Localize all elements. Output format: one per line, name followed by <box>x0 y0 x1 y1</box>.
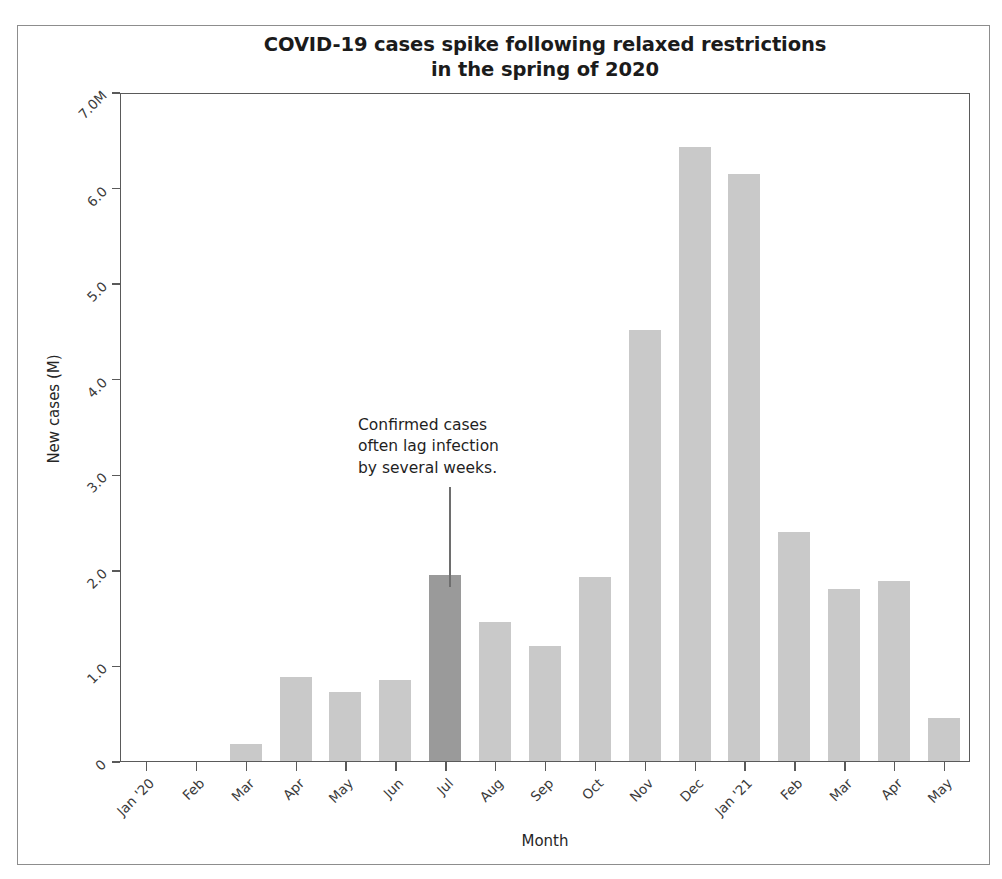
bar-slot <box>670 94 720 761</box>
y-axis-title: New cases (M) <box>45 339 63 479</box>
chart-page: COVID-19 cases spike following relaxed r… <box>0 0 1002 879</box>
bar-dec <box>679 147 711 761</box>
y-tick-mark <box>112 379 120 380</box>
bar-jan-21 <box>728 174 760 761</box>
x-tick-mark <box>944 762 945 771</box>
y-tick-mark <box>112 761 120 762</box>
bar-slot <box>221 94 271 761</box>
bar-nov <box>629 330 661 761</box>
x-tick-mark <box>146 762 147 771</box>
x-tick-mark <box>645 762 646 771</box>
x-tick-slot: May <box>919 762 969 771</box>
x-tick-mark <box>296 762 297 771</box>
x-tick-slot: May <box>321 762 371 771</box>
x-tick-slot: Aug <box>470 762 520 771</box>
x-tick-slot: Feb <box>171 762 221 771</box>
bar-slot <box>720 94 770 761</box>
x-tick-mark <box>395 762 396 771</box>
annotation-text: Confirmed cases often lag infection by s… <box>358 415 568 479</box>
x-tick-mark <box>445 762 446 771</box>
bar-may <box>329 692 361 761</box>
x-axis: Jan '20FebMarAprMayJunJulAugSepOctNovDec… <box>121 762 969 771</box>
x-tick-slot: Oct <box>570 762 620 771</box>
x-axis-title: Month <box>120 832 970 850</box>
bar-slot <box>121 94 171 761</box>
bar-may <box>928 718 960 761</box>
y-tick-mark <box>112 666 120 667</box>
x-tick-mark <box>794 762 795 771</box>
bar-slot <box>171 94 221 761</box>
x-tick-slot: Jul <box>420 762 470 771</box>
x-tick-mark <box>495 762 496 771</box>
bar-feb <box>778 532 810 761</box>
x-tick-mark <box>246 762 247 771</box>
x-tick-slot: Sep <box>520 762 570 771</box>
bar-slot <box>769 94 819 761</box>
x-tick-slot: Nov <box>620 762 670 771</box>
bar-slot <box>570 94 620 761</box>
x-tick-mark <box>595 762 596 771</box>
y-tick-mark <box>112 570 120 571</box>
x-tick-slot: Mar <box>819 762 869 771</box>
y-tick-mark <box>112 283 120 284</box>
bar-slot <box>819 94 869 761</box>
bar-slot <box>620 94 670 761</box>
x-tick-slot: Feb <box>769 762 819 771</box>
y-tick-mark <box>112 188 120 189</box>
bar-slot <box>869 94 919 761</box>
x-tick-slot: Jan '20 <box>121 762 171 771</box>
x-tick-mark <box>894 762 895 771</box>
bar-apr <box>878 581 910 761</box>
bar-oct <box>579 577 611 761</box>
x-tick-slot: Dec <box>670 762 720 771</box>
x-tick-mark <box>744 762 745 771</box>
bar-sep <box>529 646 561 761</box>
bar-aug <box>479 622 511 761</box>
x-tick-slot: Jan '21 <box>720 762 770 771</box>
bar-jul <box>429 575 461 761</box>
x-tick-mark <box>695 762 696 771</box>
x-tick-mark <box>545 762 546 771</box>
bar-jun <box>379 680 411 761</box>
chart-title: COVID-19 cases spike following relaxed r… <box>120 32 970 83</box>
x-tick-slot: Apr <box>869 762 919 771</box>
x-tick-slot: Mar <box>221 762 271 771</box>
bar-mar <box>230 744 262 761</box>
x-tick-mark <box>196 762 197 771</box>
x-tick-slot: Jun <box>370 762 420 771</box>
bar-apr <box>280 677 312 761</box>
bar-slot <box>271 94 321 761</box>
y-tick-mark <box>112 475 120 476</box>
x-tick-mark <box>844 762 845 771</box>
x-tick-mark <box>345 762 346 771</box>
y-tick-mark <box>112 92 120 93</box>
chart-annotation: Confirmed cases often lag infection by s… <box>358 415 568 479</box>
x-tick-slot: Apr <box>271 762 321 771</box>
bar-mar <box>828 589 860 761</box>
bar-slot <box>919 94 969 761</box>
annotation-leader-line <box>449 487 451 587</box>
